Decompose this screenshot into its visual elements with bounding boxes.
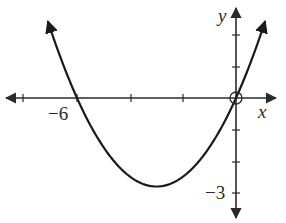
parabola-graph: y x −6 −3 [0,0,286,223]
y-tick-label-neg3: −3 [205,182,225,203]
x-tick-label-neg6: −6 [48,103,68,124]
y-axis-label: y [216,5,227,26]
x-axis-label: x [257,101,267,122]
